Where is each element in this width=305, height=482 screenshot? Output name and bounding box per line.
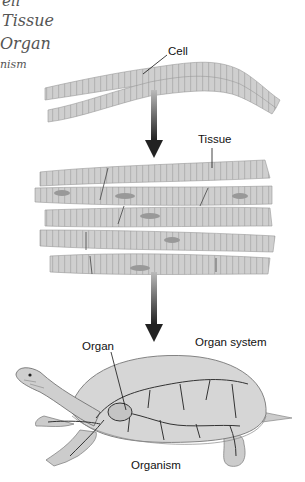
tissue-fibers	[35, 160, 275, 275]
label-organ: Organ	[82, 340, 114, 352]
label-cell: Cell	[168, 45, 188, 57]
label-organism: Organism	[131, 459, 181, 471]
arrow-cell-to-tissue	[145, 90, 163, 158]
arrow-tissue-to-organism	[145, 272, 163, 342]
label-organ-system: Organ system	[195, 336, 267, 348]
diagram-illustration	[0, 0, 305, 482]
label-tissue: Tissue	[198, 133, 231, 145]
turtle-organism	[16, 355, 292, 466]
cell-fibers	[45, 62, 280, 122]
